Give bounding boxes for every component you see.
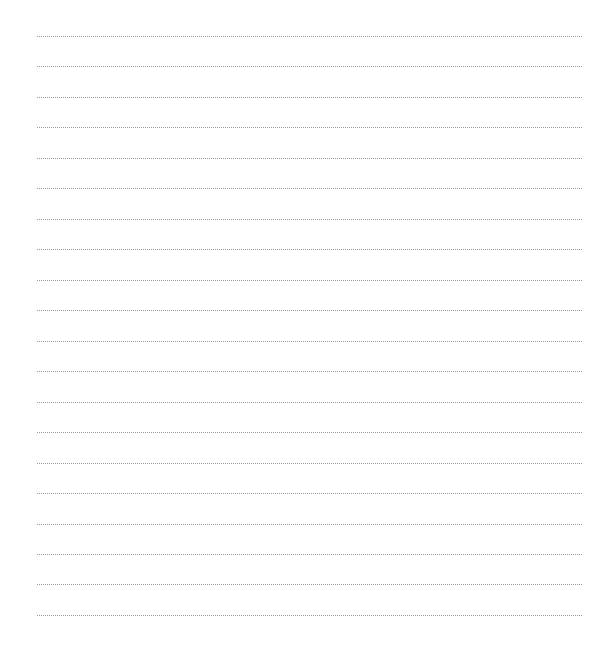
writing-line: [37, 402, 582, 403]
writing-line: [37, 371, 582, 372]
writing-line: [37, 280, 582, 281]
writing-line: [37, 188, 582, 189]
lined-page: [0, 0, 614, 649]
writing-line: [37, 97, 582, 98]
writing-line: [37, 584, 582, 585]
writing-line: [37, 310, 582, 311]
writing-line: [37, 66, 582, 67]
writing-line: [37, 36, 582, 37]
writing-line: [37, 219, 582, 220]
writing-line: [37, 158, 582, 159]
writing-line: [37, 524, 582, 525]
writing-line: [37, 432, 582, 433]
writing-line: [37, 554, 582, 555]
writing-line: [37, 127, 582, 128]
writing-line: [37, 463, 582, 464]
writing-line: [37, 493, 582, 494]
writing-line: [37, 615, 582, 616]
writing-line: [37, 341, 582, 342]
writing-line: [37, 249, 582, 250]
